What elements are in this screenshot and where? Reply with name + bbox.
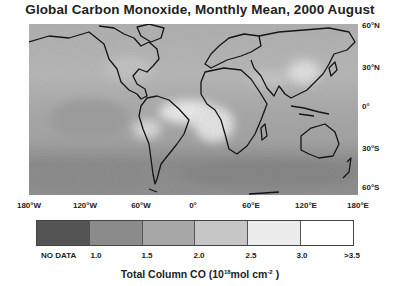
colorbar-unit-label: Total Column CO (1018mol cm-2 ) bbox=[0, 268, 400, 280]
lat-label-30n: 30°N bbox=[362, 63, 380, 72]
unit-exponent: 18 bbox=[224, 269, 231, 275]
colorbar bbox=[36, 220, 354, 246]
unit-prefix: Total Column CO (10 bbox=[121, 268, 224, 280]
lat-label-0: 0° bbox=[362, 102, 370, 111]
lon-label-0: 0° bbox=[189, 201, 197, 210]
lat-label-60s: 60°S bbox=[362, 183, 379, 192]
co-map bbox=[29, 24, 358, 195]
lon-label-180w: 180°W bbox=[17, 201, 41, 210]
colorbar-nodata-label: NO DATA bbox=[41, 251, 76, 260]
colorbar-swatch-2.5-3 bbox=[248, 221, 301, 245]
colorbar-swatch-gt3 bbox=[301, 221, 353, 245]
colorbar-tick-1.5: 1.5 bbox=[141, 251, 152, 260]
colorbar-swatch-2-2.5 bbox=[195, 221, 248, 245]
colorbar-swatch-1-1.5 bbox=[90, 221, 143, 245]
colorbar-swatch-nodata bbox=[37, 221, 90, 245]
colorbar-tick-3.0: 3.0 bbox=[296, 251, 307, 260]
lon-label-60w: 60°W bbox=[131, 201, 151, 210]
unit-mid: mol cm bbox=[231, 268, 268, 280]
lon-label-120w: 120°W bbox=[73, 201, 97, 210]
colorbar-tick-gt3.5: >3.5 bbox=[344, 251, 360, 260]
lat-label-60n: 60°N bbox=[362, 21, 380, 30]
lon-label-180e: 180°E bbox=[347, 201, 369, 210]
colorbar-swatch-1.5-2 bbox=[143, 221, 196, 245]
lat-label-30s: 30°S bbox=[362, 144, 379, 153]
colorbar-tick-1.0: 1.0 bbox=[90, 251, 101, 260]
unit-suffix: ) bbox=[273, 268, 279, 280]
lon-label-60e: 60°E bbox=[242, 201, 259, 210]
colorbar-tick-2.0: 2.0 bbox=[193, 251, 204, 260]
lon-label-120e: 120°E bbox=[295, 201, 317, 210]
chart-title: Global Carbon Monoxide, Monthly Mean, 20… bbox=[0, 2, 400, 17]
colorbar-tick-2.5: 2.5 bbox=[245, 251, 256, 260]
